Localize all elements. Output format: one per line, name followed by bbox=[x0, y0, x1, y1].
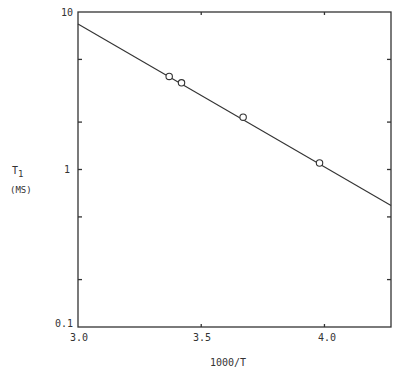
fit-line bbox=[78, 24, 391, 206]
y-axis-label: T1 bbox=[12, 165, 23, 179]
y-tick-label-10: 10 bbox=[61, 7, 73, 18]
y-axis-unit: (MS) bbox=[10, 185, 32, 195]
data-point bbox=[316, 160, 322, 166]
y-axis-label-sub: 1 bbox=[18, 169, 23, 179]
x-tick-label-4.0: 4.0 bbox=[318, 332, 336, 343]
x-tick-label-3.0: 3.0 bbox=[70, 332, 88, 343]
x-axis-label: 1000/T bbox=[210, 357, 246, 368]
data-point bbox=[166, 73, 172, 79]
y-tick-label-1: 1 bbox=[64, 164, 70, 175]
data-point bbox=[240, 114, 246, 120]
axis-ticks bbox=[78, 12, 391, 327]
plot-frame bbox=[78, 12, 391, 327]
x-tick-label-3.5: 3.5 bbox=[193, 332, 211, 343]
data-point bbox=[178, 80, 184, 86]
y-tick-label-0.1: 0.1 bbox=[55, 318, 73, 329]
